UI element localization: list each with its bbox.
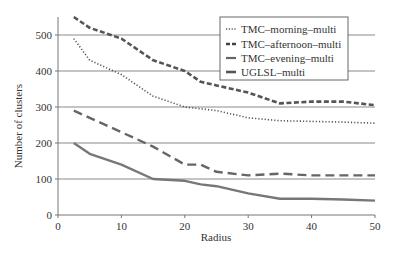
series-line-solid [74,143,375,201]
x-tick-label: 40 [306,220,318,232]
y-tick-label: 400 [36,65,53,77]
x-tick-label: 20 [179,220,191,232]
legend-item-morning: TMC–morning–multi [226,23,336,35]
x-tick-label: 30 [243,220,255,232]
legend-label: TMC–morning–multi [241,23,336,35]
legend: TMC–morning–multi TMC–afternoon–multi TM… [220,17,348,80]
x-axis-ticks: 01020304050 [55,215,381,232]
line-chart: 0100200300400500 01020304050 Radius Numb… [0,0,393,256]
legend-item-evening: TMC–evening–multi [226,52,334,64]
y-axis-ticks: 0100200300400500 [36,29,59,221]
y-tick-label: 100 [36,173,53,185]
x-axis-title: Radius [201,231,232,243]
y-axis-title: Number of clusters [12,84,24,168]
legend-label: TMC–afternoon–multi [241,38,341,50]
legend-item-afternoon: TMC–afternoon–multi [226,38,341,50]
y-tick-label: 0 [47,209,53,221]
y-tick-label: 200 [36,137,53,149]
x-tick-label: 10 [116,220,128,232]
legend-label: TMC–evening–multi [241,52,334,64]
y-tick-label: 300 [36,101,53,113]
y-tick-label: 500 [36,29,53,41]
x-tick-label: 50 [370,220,382,232]
legend-label: UGLSL–multi [241,66,305,78]
x-tick-label: 0 [55,220,61,232]
